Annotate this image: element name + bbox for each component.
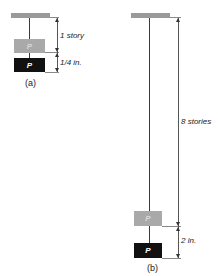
caption-a: (a) [25, 78, 36, 88]
dimension-line-a [57, 18, 58, 72]
weight-stretched-a: P [14, 58, 45, 72]
weight-initial-b: P [134, 211, 162, 226]
weight-label: P [14, 58, 45, 72]
arrow-down-icon [176, 222, 180, 226]
dimension-label-story: 1 story [60, 31, 84, 40]
arrow-down-icon [55, 48, 59, 52]
ceiling-bar-a [11, 13, 50, 18]
arrow-up-icon [176, 227, 180, 231]
weight-initial-a: P [14, 39, 45, 53]
arrow-up-icon [55, 53, 59, 57]
extension-line [45, 72, 59, 73]
dimension-label-stretch: 1/4 in. [60, 58, 82, 67]
arrow-up-icon [55, 18, 59, 22]
weight-stretched-b: P [134, 243, 162, 258]
ceiling-bar-b [131, 13, 170, 18]
arrow-down-icon [55, 68, 59, 72]
weight-label: P [134, 211, 162, 226]
arrow-up-icon [176, 18, 180, 22]
weight-label: P [134, 243, 162, 258]
caption-b: (b) [147, 263, 158, 273]
weight-label: P [14, 39, 45, 53]
dimension-label-stories: 8 stories [181, 117, 211, 126]
extension-line [162, 258, 181, 259]
dimension-label-stretch: 2 in. [181, 236, 196, 245]
arrow-down-icon [176, 254, 180, 258]
